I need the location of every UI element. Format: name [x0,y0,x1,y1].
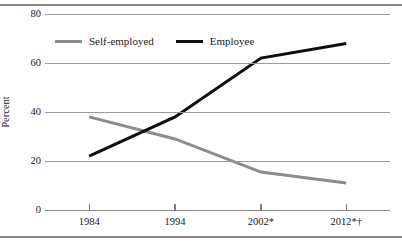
gridline-20 [45,161,390,162]
legend-swatch-self-employed [55,40,82,43]
x-tick-label-2: 2002* [248,217,274,228]
bottom-rule [0,236,402,238]
x-axis-line [45,210,390,211]
legend-label-employee: Employee [210,36,255,47]
series-line-self-employed [89,117,346,183]
gridline-40 [45,112,390,113]
legend-swatch-employee [176,40,203,43]
gridline-80 [45,14,390,15]
x-tick-label-3: 2012*† [330,217,362,228]
y-axis-title: Percent [1,96,12,128]
chart-figure: Percent 020406080 Self-employed Employee… [0,0,402,245]
x-tick-label-1: 1994 [165,217,186,228]
y-tick-label-60: 60 [31,58,42,69]
x-tick-label-0: 1984 [79,217,100,228]
y-tick-label-40: 40 [31,107,42,118]
top-rule [0,4,402,6]
legend-item-employee: Employee [176,36,255,47]
x-tick-mark-2 [260,204,261,211]
legend-item-self-employed: Self-employed [55,36,154,47]
x-tick-mark-1 [174,204,175,211]
chart-legend: Self-employed Employee [55,36,254,47]
gridline-60 [45,63,390,64]
series-line-employee [89,43,346,156]
x-tick-mark-0 [89,204,90,211]
y-tick-label-80: 80 [31,9,42,20]
legend-label-self-employed: Self-employed [89,36,154,47]
y-tick-label-0: 0 [36,205,41,216]
y-tick-label-20: 20 [31,156,42,167]
x-tick-mark-3 [346,204,347,211]
